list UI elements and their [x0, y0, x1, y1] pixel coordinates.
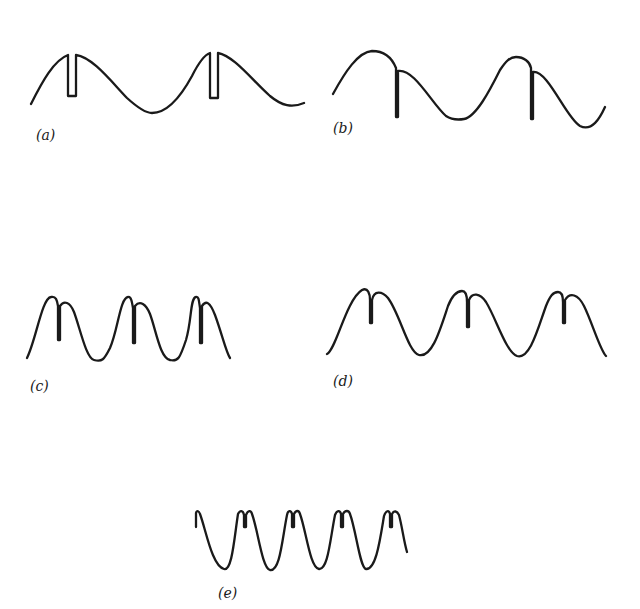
- panel-label-a: (a): [36, 128, 55, 142]
- panel-label-c: (c): [30, 379, 49, 393]
- panel-e-group: [196, 511, 407, 570]
- panel-label-b: (b): [333, 121, 353, 135]
- panel-a-group: [31, 53, 304, 113]
- panel-d-group: [327, 289, 606, 356]
- panel-label-e: (e): [218, 586, 237, 600]
- panel-c-group: [27, 297, 230, 361]
- waveform-d: [327, 289, 606, 356]
- panel-b-group: [333, 51, 605, 127]
- waveform-c: [27, 297, 230, 361]
- waveform-a: [31, 53, 304, 113]
- waveform-b: [333, 51, 605, 127]
- waveform-e: [196, 511, 407, 570]
- panel-label-d: (d): [333, 374, 353, 388]
- waveform-figure: [0, 0, 640, 609]
